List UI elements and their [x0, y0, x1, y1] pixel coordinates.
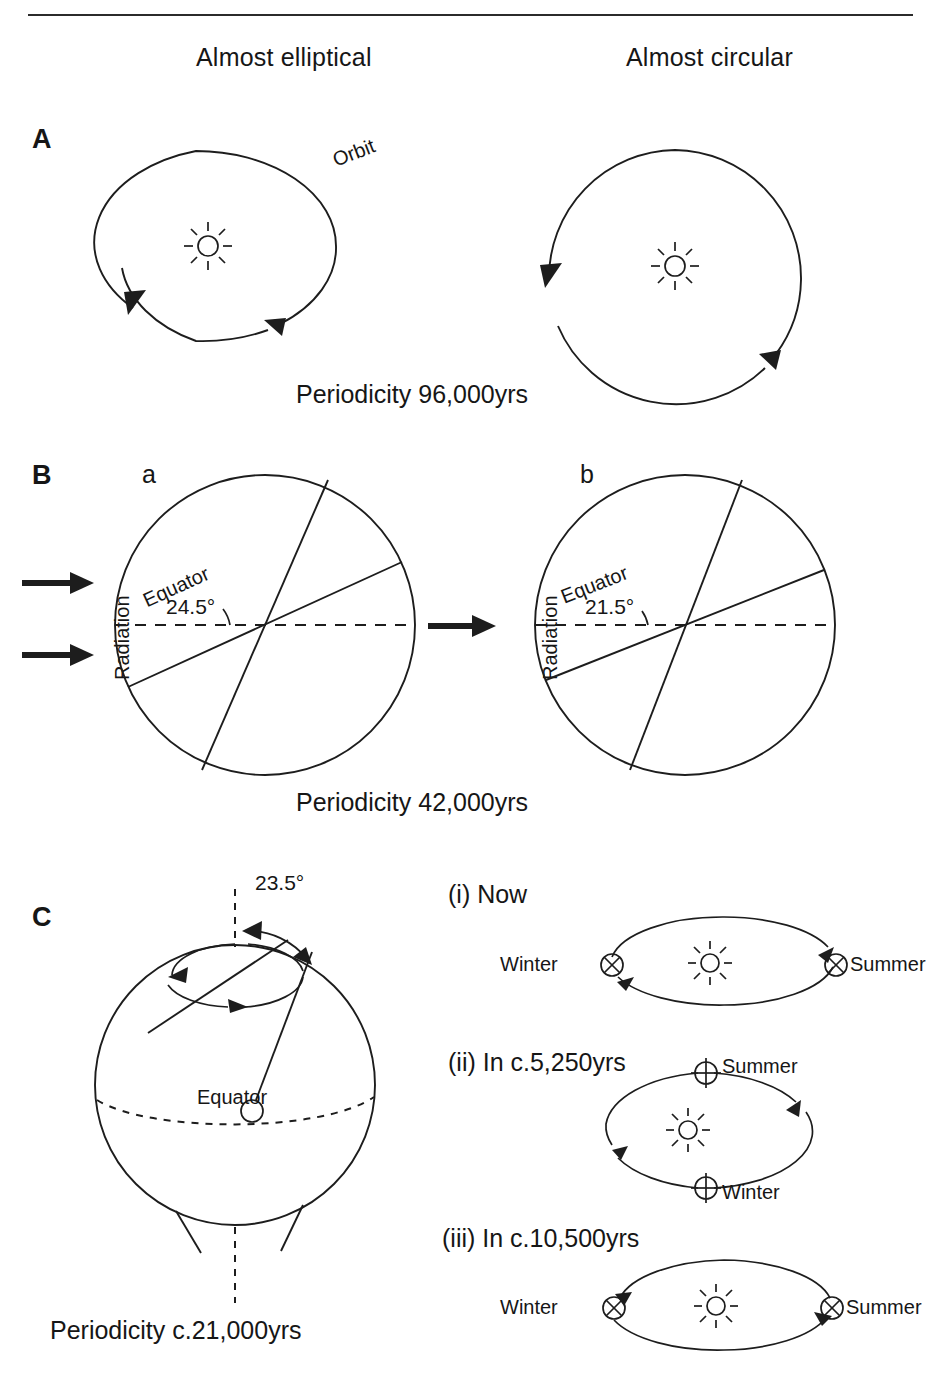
tilt-axis-line [256, 952, 312, 1100]
orbit-state-label-i: (i) Now [448, 882, 527, 907]
panel-letter-b: B [32, 462, 52, 489]
orbit-arrowhead-lower-right [759, 350, 781, 370]
orbit-arrowhead-upper-left [124, 290, 146, 315]
sun-symbol [651, 242, 699, 290]
panel-a-elliptical-orbit [0, 100, 460, 390]
orbit-arc-right-lower [714, 1112, 813, 1188]
radiation-arrow-bottom [22, 644, 94, 666]
precession-arrowhead-left [168, 967, 188, 983]
sun-symbol [688, 941, 732, 985]
sun-symbol [666, 1108, 710, 1152]
panel-c-caption: Periodicity c.21,000yrs [50, 1318, 302, 1343]
season-label-i-summer: Summer [850, 954, 926, 974]
season-label-ii-summer: Summer [722, 1056, 798, 1076]
orbit-arc-lower [614, 1318, 826, 1350]
orbit-arc-bottom-left [618, 1158, 698, 1188]
panel-a-circular-orbit [460, 100, 913, 390]
earth-cross-circle-summer [825, 954, 847, 976]
transition-arrow [428, 612, 518, 642]
panel-c-equator-label: Equator [197, 1087, 267, 1107]
panel-a-caption: Periodicity 96,000yrs [296, 382, 528, 407]
earth-plus-circle-winter [691, 1173, 721, 1203]
orbit-arc-lower [618, 967, 833, 1005]
season-label-i-winter: Winter [500, 954, 558, 974]
panel-letter-c: C [32, 904, 52, 931]
panel-b-globe-a [110, 465, 430, 785]
earth-cross-circle-summer [821, 1297, 843, 1319]
orbit-arc-upper [620, 1260, 830, 1298]
tilt-angle-arc [642, 611, 648, 625]
column-heading-left: Almost elliptical [196, 45, 372, 70]
orbit-arrowhead-left [612, 1146, 628, 1160]
panel-b-caption: Periodicity 42,000yrs [296, 790, 528, 815]
tilt-angle-arc [223, 609, 230, 625]
earth-plus-circle-summer [691, 1058, 721, 1088]
earth-cross-circle-winter [603, 1297, 625, 1319]
panel-c-precessing-earth [60, 855, 440, 1285]
orbit-arc-upper [612, 917, 828, 957]
orbit-arc-left [606, 1073, 698, 1145]
precession-circle-seg2 [168, 985, 228, 1007]
radiation-arrows-left [22, 565, 112, 675]
earth-sphere [95, 945, 375, 1225]
column-heading-right: Almost circular [626, 45, 793, 70]
orbit-arc-top-right [714, 1073, 796, 1102]
panel-c-tilt-angle-label: 23.5° [255, 872, 304, 893]
season-label-iii-winter: Winter [500, 1297, 558, 1317]
orbit-arrowhead-upper-left [540, 263, 562, 288]
season-label-ii-winter: Winter [722, 1182, 780, 1202]
header-rule [28, 14, 913, 16]
season-label-iii-summer: Summer [846, 1297, 922, 1317]
sun-symbol [694, 1284, 738, 1328]
radiation-arrow-top [22, 572, 94, 594]
panel-b-globe-b [530, 465, 850, 785]
tilt-angle-label-a: 24.5° [166, 596, 215, 617]
sun-symbol [184, 222, 232, 270]
tilt-angle-label-b: 21.5° [585, 596, 634, 617]
tilt-angle-arrowhead-left [242, 921, 262, 940]
precession-arrowhead-right [228, 999, 248, 1013]
orbit-arrowhead-lower-right [264, 318, 286, 336]
orbit-arrowhead-right [786, 1100, 801, 1117]
earth-cross-circle-winter [601, 954, 623, 976]
precession-circle-seg3 [245, 977, 303, 1007]
